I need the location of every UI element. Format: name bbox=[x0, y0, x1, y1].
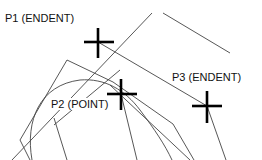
crosshair-icon-p1[interactable] bbox=[84, 28, 114, 58]
point-label-p2: P2 (POINT) bbox=[51, 98, 108, 110]
point-label-p3: P3 (ENDENT) bbox=[172, 71, 241, 83]
line-segment bbox=[54, 118, 67, 160]
line-segment bbox=[163, 13, 230, 53]
crosshair-icon-p2[interactable] bbox=[107, 79, 137, 110]
point-label-p1: P1 (ENDENT) bbox=[5, 12, 74, 24]
crosshair-icon-p3[interactable] bbox=[192, 91, 222, 123]
line-segment bbox=[12, 13, 152, 160]
arc-curve bbox=[30, 80, 172, 160]
line-segment bbox=[207, 106, 226, 160]
